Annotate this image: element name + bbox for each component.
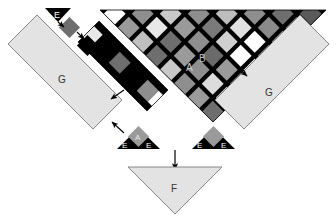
label-e-top: E <box>54 10 60 20</box>
label-e-left-1: E <box>122 141 127 150</box>
diagram-canvas: A B E G G <box>0 0 336 221</box>
label-e-left-2: E <box>146 141 151 150</box>
label-b-main: B <box>199 53 206 64</box>
label-e-right-2: E <box>221 141 226 150</box>
schematic-svg: A B E G G <box>0 0 336 221</box>
label-g-right: G <box>265 87 273 98</box>
label-a-main: A <box>186 62 193 73</box>
label-g-left: G <box>58 74 66 85</box>
label-e-right-1: E <box>197 141 202 150</box>
label-a-small: A <box>135 133 141 142</box>
label-f: F <box>171 183 177 194</box>
